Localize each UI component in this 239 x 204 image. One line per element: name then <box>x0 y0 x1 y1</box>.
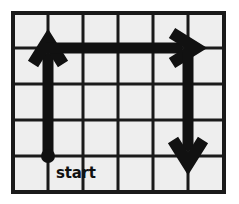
start-label: start <box>56 164 96 182</box>
start-dot <box>41 149 55 163</box>
diagram-canvas: start <box>0 0 239 204</box>
grid-path-figure: start start <box>0 0 239 204</box>
